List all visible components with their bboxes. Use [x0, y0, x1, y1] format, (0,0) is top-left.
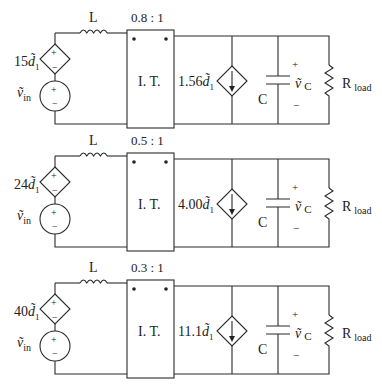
- vc-label: ṽC: [295, 76, 312, 92]
- plus-sign: +: [51, 334, 57, 345]
- inductor-label: L: [89, 133, 98, 148]
- polarity-dot-icon: [132, 287, 136, 291]
- capacitor-label: C: [258, 215, 267, 230]
- arrow-head-icon: [229, 86, 235, 92]
- resistor-icon: [325, 65, 333, 98]
- turns-ratio: 0.8 : 1: [131, 10, 164, 25]
- polarity-dot-icon: [164, 287, 168, 291]
- load-label: Rload: [342, 326, 372, 343]
- current-gain: 1.56d̃1: [178, 73, 214, 92]
- wire-top-right: [174, 36, 329, 65]
- vin-label: ṽin: [17, 208, 31, 226]
- vin-label: ṽin: [17, 85, 31, 103]
- current-gain: 11.1d̃1: [178, 323, 213, 342]
- minus-sign: −: [293, 349, 299, 361]
- polarity-dot-icon: [164, 37, 168, 41]
- transformer-label: I. T.: [138, 197, 160, 212]
- capacitor-icon: [266, 199, 290, 207]
- polarity-dot-icon: [132, 160, 136, 164]
- wire-top-right: [174, 286, 329, 315]
- source-gain: 24d̃1: [14, 176, 40, 195]
- arrow-head-icon: [229, 209, 235, 215]
- minus-sign: −: [52, 312, 58, 323]
- plus-sign: +: [292, 308, 298, 320]
- transformer-label: I. T.: [138, 324, 160, 339]
- transformer-label: I. T.: [138, 74, 160, 89]
- circuit-1: L + − 15d̃1 + − ṽin 0.8 : 1 I. T. 1.56d̃…: [14, 10, 372, 128]
- plus-sign: +: [51, 170, 57, 181]
- minus-sign: −: [52, 185, 58, 196]
- circuit-diagram: L + − 15d̃1 + − ṽin 0.8 : 1 I. T. 1.56d̃…: [0, 0, 382, 387]
- circuit-3: L + − 40d̃1 + − ṽin 0.3 : 1 I. T. 11.1d̃…: [14, 260, 372, 378]
- plus-sign: +: [51, 47, 57, 58]
- vc-label: ṽC: [295, 326, 312, 342]
- minus-sign: −: [52, 221, 58, 232]
- minus-sign: −: [293, 222, 299, 234]
- minus-sign: −: [52, 62, 58, 73]
- polarity-dot-icon: [132, 37, 136, 41]
- plus-sign: +: [292, 58, 298, 70]
- vin-label: ṽin: [17, 335, 31, 353]
- wire-bottom-right: [174, 221, 329, 247]
- wire-bottom-left: [55, 111, 127, 124]
- vc-label: ṽC: [295, 199, 312, 215]
- plus-sign: +: [51, 84, 57, 95]
- arrow-head-icon: [229, 336, 235, 342]
- wire-bottom-left: [55, 234, 127, 247]
- minus-sign: −: [52, 348, 58, 359]
- wire-top-right: [174, 159, 329, 188]
- resistor-icon: [325, 188, 333, 221]
- inductor-icon: [80, 30, 107, 33]
- plus-sign: +: [51, 297, 57, 308]
- plus-sign: +: [51, 207, 57, 218]
- circuit-2: L + − 24d̃1 + − ṽin 0.5 : 1 I. T. 4.00d̃…: [14, 133, 372, 251]
- load-label: Rload: [342, 199, 372, 216]
- source-gain: 40d̃1: [14, 303, 40, 322]
- minus-sign: −: [293, 99, 299, 111]
- resistor-icon: [325, 315, 333, 348]
- capacitor-label: C: [258, 342, 267, 357]
- wire-bottom-left: [55, 361, 127, 374]
- inductor-icon: [80, 280, 107, 283]
- turns-ratio: 0.3 : 1: [131, 260, 164, 275]
- capacitor-icon: [266, 76, 290, 84]
- wire-bottom-right: [174, 98, 329, 124]
- turns-ratio: 0.5 : 1: [131, 133, 164, 148]
- polarity-dot-icon: [164, 160, 168, 164]
- plus-sign: +: [292, 181, 298, 193]
- inductor-icon: [80, 153, 107, 156]
- current-gain: 4.00d̃1: [178, 196, 214, 215]
- load-label: Rload: [342, 76, 372, 93]
- inductor-label: L: [89, 260, 98, 275]
- minus-sign: −: [52, 98, 58, 109]
- capacitor-label: C: [258, 92, 267, 107]
- inductor-label: L: [89, 10, 98, 25]
- wire-bottom-right: [174, 348, 329, 374]
- source-gain: 15d̃1: [14, 53, 40, 72]
- capacitor-icon: [266, 326, 290, 334]
